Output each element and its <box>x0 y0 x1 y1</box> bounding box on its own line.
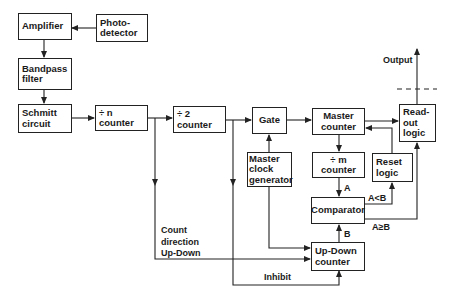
count-direction-line: Count <box>161 225 201 237</box>
count-direction-line: Up-Down <box>161 248 201 260</box>
connection-lines <box>0 0 449 299</box>
reset-logic-block: Resetlogic <box>372 153 413 182</box>
a-less-than-b-label: A<B <box>368 193 386 204</box>
up-down-counter-block: Up-Downcounter <box>311 242 365 271</box>
photodetector-block: Photo-detector <box>96 14 148 42</box>
block-label: Amplifier <box>22 21 68 32</box>
schmitt-circuit-block: Schmittcircuit <box>18 104 72 133</box>
gate-block: Gate <box>252 107 287 134</box>
a-label: A <box>344 183 351 194</box>
comparator-block: Comparator <box>311 197 365 224</box>
block-label: Master <box>323 111 354 122</box>
block-label: generator <box>249 175 290 186</box>
block-label: counter <box>321 165 356 176</box>
inhibit-label: Inhibit <box>264 272 291 283</box>
block-label: circuit <box>22 119 68 130</box>
block-label: logic <box>376 168 409 179</box>
divide-2-counter-block: ÷ 2counter <box>173 106 226 133</box>
bandpass-filter-block: Bandpassfilter <box>18 58 72 90</box>
block-label: ÷ 2 <box>177 109 222 120</box>
block-label: Gate <box>259 115 280 126</box>
block-label: counter <box>315 257 361 268</box>
block-label: logic <box>403 128 432 139</box>
block-label: Reset <box>376 157 409 168</box>
block-label: counter <box>177 120 222 131</box>
output-label: Output <box>383 55 413 66</box>
count-direction-line: direction <box>161 237 201 249</box>
a-greater-equal-b-label: A≥B <box>372 222 390 233</box>
divide-n-counter-block: ÷ ncounter <box>95 105 148 131</box>
master-clock-generator-block: Masterclockgenerator <box>247 152 292 187</box>
block-label: counter <box>99 118 144 129</box>
block-label: Schmitt <box>22 108 68 119</box>
block-label: Up-Down <box>315 246 361 257</box>
readout-logic-block: Read-outlogic <box>399 104 436 142</box>
block-label: detector <box>100 28 144 39</box>
master-counter-block: Mastercounter <box>312 108 365 135</box>
count-direction-label: Count direction Up-Down <box>161 225 201 260</box>
amplifier-block: Amplifier <box>18 13 72 40</box>
block-label: Comparator <box>311 205 365 216</box>
block-label: counter <box>321 122 356 133</box>
b-label: B <box>344 229 351 240</box>
divide-m-counter-block: ÷ mcounter <box>312 152 365 178</box>
block-label: filter <box>22 74 68 85</box>
